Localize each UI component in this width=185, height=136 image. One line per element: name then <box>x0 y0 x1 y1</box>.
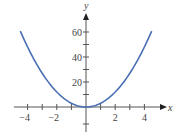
y-tick-label: 60 <box>72 27 82 38</box>
y-tick-label: 20 <box>72 77 82 88</box>
x-tick-label: −4 <box>19 112 30 123</box>
plot-area: −4−224204060 x y <box>0 0 185 136</box>
y-axis-label: y <box>83 0 89 11</box>
x-tick-label: −2 <box>48 112 59 123</box>
y-tick-label: 40 <box>72 52 82 63</box>
x-axis-label: x <box>167 102 173 113</box>
parabola-chart: −4−224204060 x y <box>0 0 185 136</box>
y-axis-arrow-icon <box>83 13 89 20</box>
x-tick-label: 2 <box>113 112 118 123</box>
x-axis-arrow-icon <box>160 104 167 110</box>
tick-labels: −4−224204060 <box>19 27 147 124</box>
x-tick-label: 4 <box>142 112 147 123</box>
